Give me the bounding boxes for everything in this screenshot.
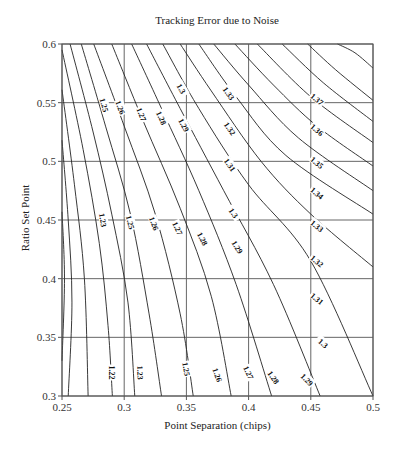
svg-text:1.26: 1.26 [147, 216, 160, 232]
svg-text:1.26: 1.26 [210, 367, 223, 383]
contour-labels: 1.371.361.351.341.331.321.311.31.291.281… [97, 79, 333, 389]
contour-line [62, 140, 72, 396]
contour-label: 1.32 [221, 119, 238, 138]
x-tick-label: 0.35 [177, 401, 197, 413]
y-tick-label: 0.55 [37, 97, 57, 109]
x-tick-label: 0.4 [242, 401, 256, 413]
y-tick-label: 0.3 [42, 390, 56, 402]
x-tick-label: 0.5 [366, 401, 380, 413]
svg-text:1.25: 1.25 [124, 215, 136, 231]
contour-label: 1.29 [298, 370, 316, 388]
contour-label: 1.25 [124, 213, 138, 231]
svg-text:1.23: 1.23 [97, 212, 108, 227]
y-tick-label: 0.5 [42, 155, 56, 167]
contour-line [235, 44, 373, 166]
contour-label: 1.29 [229, 238, 246, 257]
y-tick-label: 0.4 [42, 273, 56, 285]
svg-text:1.25: 1.25 [180, 361, 191, 376]
contour-line [308, 44, 373, 100]
svg-text:1.22: 1.22 [107, 366, 116, 380]
y-tick-label: 0.35 [37, 331, 57, 343]
svg-text:1.29: 1.29 [299, 372, 315, 388]
contour-label: 1.23 [97, 211, 110, 228]
contour-line [338, 44, 373, 68]
contour-label: 1.23 [135, 364, 146, 380]
contour-label: 1.25 [97, 96, 111, 114]
contour-label: 1.29 [176, 116, 192, 135]
contour-label: 1.25 [180, 360, 193, 377]
contour-line [62, 90, 88, 396]
x-tick-label: 0.45 [301, 401, 321, 413]
contour-label: 1.27 [170, 219, 186, 238]
contour-label: 1.28 [194, 229, 210, 248]
svg-text:1.23: 1.23 [135, 365, 144, 379]
x-axis-label: Point Separation (chips) [62, 419, 373, 431]
contour-label: 1.33 [220, 84, 237, 103]
contour-label: 1.27 [241, 363, 257, 382]
contour-label: 1.26 [210, 366, 225, 384]
y-tick-label: 0.6 [42, 38, 56, 50]
contour-label: 1.31 [221, 155, 238, 174]
contour-label: 1.26 [113, 98, 128, 116]
y-axis-label: Ratio Set Point [19, 163, 31, 273]
x-tick-label: 0.25 [52, 401, 72, 413]
contour-label: 1.27 [134, 105, 149, 124]
contour-plot: 1.371.361.351.341.331.321.311.31.291.281… [0, 0, 397, 450]
contour-label: 1.26 [147, 214, 162, 232]
contour-label: 1.22 [107, 365, 117, 381]
x-tick-label: 0.3 [117, 401, 131, 413]
contour-label: 1.28 [154, 109, 170, 128]
axes: 0.250.30.350.40.450.50.60.550.50.450.40.… [37, 38, 381, 413]
svg-text:1.25: 1.25 [98, 97, 110, 113]
y-tick-label: 0.45 [37, 214, 57, 226]
